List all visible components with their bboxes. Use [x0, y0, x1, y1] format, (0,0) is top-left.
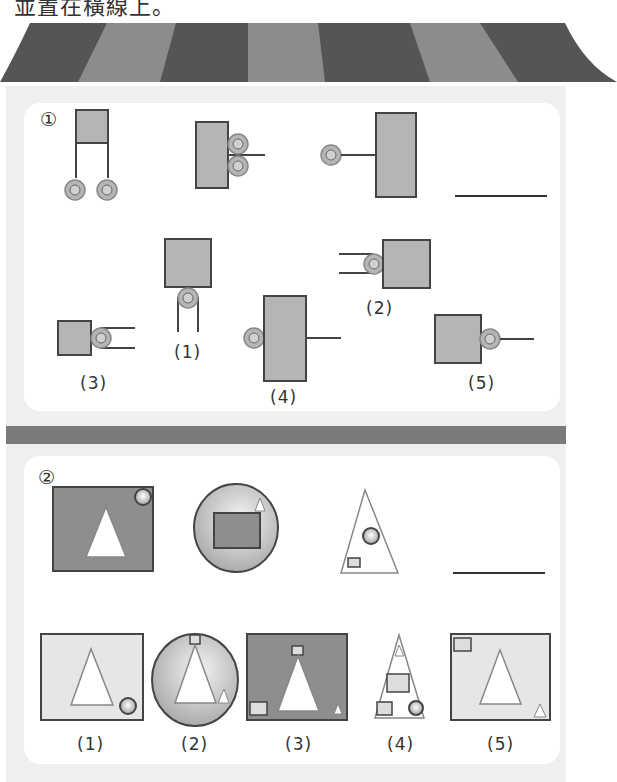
q2-option-3-label[interactable]: (3): [285, 734, 312, 754]
q2-option-4-label[interactable]: (4): [387, 734, 414, 754]
q2-option-5-label[interactable]: (5): [487, 734, 514, 754]
q2-option-1-label[interactable]: (1): [77, 734, 104, 754]
q2-option-2-label[interactable]: (2): [181, 734, 208, 754]
q2-option-3-figure: [247, 634, 347, 720]
q2-seq-item-1: [53, 487, 153, 571]
q2-seq-item-2: [194, 484, 278, 572]
q2-seq-item-3: [341, 490, 398, 573]
q2-option-5-figure: [451, 634, 550, 720]
q2-option-1-figure: [41, 634, 143, 720]
q2-option-4-figure: [375, 635, 424, 718]
q2-option-2-figure: [152, 634, 238, 726]
q2-figures: [0, 0, 617, 782]
